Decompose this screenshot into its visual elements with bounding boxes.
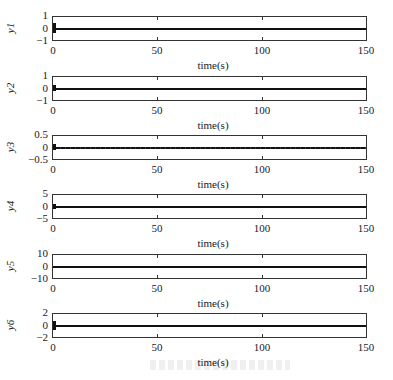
- plot-area: [52, 135, 367, 160]
- y-tick-mid: 0: [8, 201, 48, 212]
- x-axis-title: time(s): [183, 59, 243, 71]
- y-tick-mid: 0: [8, 142, 48, 153]
- plot-area: [52, 313, 367, 338]
- y-tick-top: 2: [8, 307, 48, 318]
- x-tick-mark: [157, 255, 158, 258]
- x-tick-mark: [157, 17, 158, 20]
- x-tick-mark: [157, 314, 158, 317]
- x-axis-title: time(s): [183, 178, 243, 190]
- x-tick-label: 100: [247, 104, 277, 116]
- x-tick-label: 0: [38, 44, 68, 56]
- x-tick-mark: [157, 37, 158, 40]
- x-tick-mark: [262, 255, 263, 258]
- x-tick-mark: [262, 215, 263, 218]
- x-tick-label: 50: [142, 44, 172, 56]
- x-tick-mark: [157, 77, 158, 80]
- x-tick-label: 100: [247, 341, 277, 353]
- transient-spike: [53, 204, 56, 209]
- y-tick-mid: 0: [8, 23, 48, 34]
- x-tick-label: 100: [247, 222, 277, 234]
- x-tick-mark: [262, 314, 263, 317]
- x-tick-label: 50: [142, 163, 172, 175]
- plot-area: [52, 194, 367, 219]
- data-line: [53, 206, 366, 208]
- x-tick-label: 0: [38, 341, 68, 353]
- data-line: [53, 266, 366, 268]
- panel-y3: y3 0.5 0 −0.5 0 50 100 150 time(s): [0, 135, 393, 195]
- x-tick-mark: [157, 136, 158, 139]
- x-axis-title: time(s): [183, 297, 243, 309]
- x-tick-mark: [157, 97, 158, 100]
- plot-area: [52, 16, 367, 41]
- x-tick-label: 100: [247, 44, 277, 56]
- x-tick-mark: [262, 136, 263, 139]
- x-tick-mark: [262, 97, 263, 100]
- y-tick-top: 1: [8, 70, 48, 81]
- data-line: [53, 147, 366, 149]
- x-axis-title: time(s): [183, 237, 243, 249]
- y-tick-top: 1: [8, 10, 48, 21]
- x-tick-mark: [157, 334, 158, 337]
- x-tick-mark: [157, 275, 158, 278]
- x-tick-label: 0: [38, 282, 68, 294]
- y-tick-mid: 0: [8, 320, 48, 331]
- transient-spike: [53, 23, 56, 33]
- x-tick-mark: [262, 195, 263, 198]
- x-tick-label: 0: [38, 104, 68, 116]
- x-tick-label: 150: [351, 44, 381, 56]
- data-line: [53, 88, 366, 90]
- x-tick-mark: [262, 37, 263, 40]
- x-tick-mark: [157, 195, 158, 198]
- x-tick-label: 50: [142, 341, 172, 353]
- x-axis-title: time(s): [183, 119, 243, 131]
- x-tick-label: 150: [351, 104, 381, 116]
- x-tick-label: 150: [351, 341, 381, 353]
- panel-y5: y5 10 0 −10 0 50 100 150 time(s): [0, 254, 393, 314]
- y-tick-top: 0.5: [8, 129, 48, 140]
- scan-bleed-through: [150, 360, 290, 370]
- y-tick-top: 10: [8, 248, 48, 259]
- x-tick-label: 50: [142, 104, 172, 116]
- x-tick-mark: [157, 156, 158, 159]
- x-tick-mark: [262, 156, 263, 159]
- x-tick-mark: [262, 77, 263, 80]
- panel-y2: y2 1 0 −1 0 50 100 150 time(s): [0, 76, 393, 136]
- plot-area: [52, 76, 367, 101]
- x-tick-mark: [262, 334, 263, 337]
- x-tick-mark: [262, 17, 263, 20]
- x-tick-label: 0: [38, 222, 68, 234]
- x-tick-label: 50: [142, 282, 172, 294]
- y-tick-mid: 0: [8, 261, 48, 272]
- panel-y1: y1 1 0 −1 0 50 100 150 time(s): [0, 16, 393, 76]
- plot-area: [52, 254, 367, 279]
- x-tick-label: 100: [247, 163, 277, 175]
- x-tick-label: 150: [351, 282, 381, 294]
- transient-spike: [53, 85, 56, 91]
- data-line: [53, 325, 366, 327]
- panel-y4: y4 5 0 −5 0 50 100 150 time(s): [0, 194, 393, 254]
- x-tick-label: 150: [351, 222, 381, 234]
- y-tick-top: 5: [8, 188, 48, 199]
- data-line: [53, 28, 366, 30]
- x-tick-label: 150: [351, 163, 381, 175]
- transient-spike: [53, 144, 56, 150]
- x-tick-label: 50: [142, 222, 172, 234]
- x-tick-label: 100: [247, 282, 277, 294]
- x-tick-label: 0: [38, 163, 68, 175]
- transient-spike: [53, 321, 56, 330]
- x-tick-mark: [157, 215, 158, 218]
- y-tick-mid: 0: [8, 83, 48, 94]
- x-tick-mark: [262, 275, 263, 278]
